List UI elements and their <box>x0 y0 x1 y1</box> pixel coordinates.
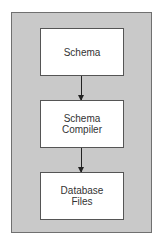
node-schema: Schema <box>40 28 124 76</box>
node-schema-compiler: Schema Compiler <box>40 100 124 148</box>
node-label: Schema Compiler <box>62 113 102 135</box>
arrow-schema-to-compiler <box>81 76 82 100</box>
node-label: Schema <box>64 47 101 58</box>
node-database-files: Database Files <box>40 172 124 220</box>
node-label: Database Files <box>61 185 104 207</box>
arrow-compiler-to-files <box>81 148 82 172</box>
